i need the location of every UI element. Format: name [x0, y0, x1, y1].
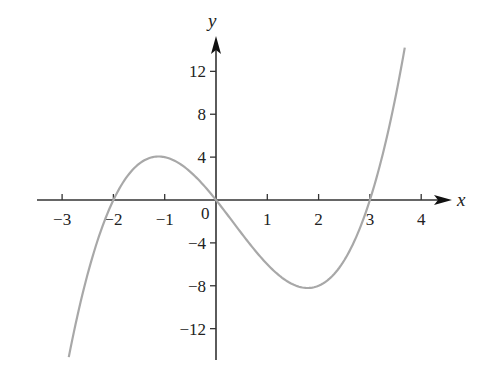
x-axis: −3−2−11234 [37, 194, 452, 229]
y-tick-label: 4 [198, 148, 207, 167]
y-tick-label: 12 [189, 62, 206, 81]
x-tick-label: 3 [366, 210, 375, 229]
origin-label: 0 [201, 204, 210, 223]
x-tick-label: 1 [263, 210, 272, 229]
function-plot: −3−2−11234 1284−4−8−12 x y 0 [0, 0, 500, 374]
y-tick-label: 8 [198, 105, 207, 124]
curve-layer [69, 48, 405, 357]
x-tick-label: −1 [156, 210, 174, 229]
x-tick-label: −3 [53, 210, 71, 229]
x-tick-label: 2 [314, 210, 323, 229]
x-tick-label: 4 [417, 210, 426, 229]
y-tick-label: −8 [188, 277, 206, 296]
y-tick-label: −4 [188, 234, 207, 253]
y-tick-label: −12 [179, 320, 206, 339]
y-axis-title: y [206, 10, 217, 31]
x-axis-title: x [456, 189, 466, 210]
function-curve [69, 48, 405, 357]
